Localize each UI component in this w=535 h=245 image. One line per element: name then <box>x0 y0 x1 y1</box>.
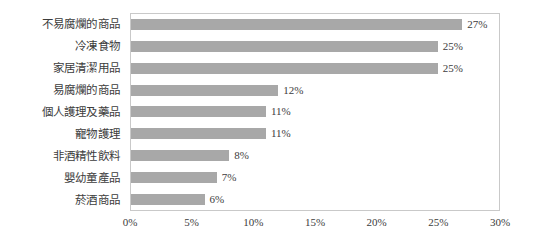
x-tick-label: 20% <box>367 216 387 229</box>
x-axis: 0% 5% 10% 15% 20% 25% 30% <box>130 213 500 233</box>
category-label: 寵物護理 <box>0 128 126 141</box>
x-tick-label: 30% <box>490 216 510 229</box>
bar-value-label: 11% <box>271 128 291 139</box>
bar-row: 11% <box>131 106 499 117</box>
bar <box>131 85 278 96</box>
category-label: 易腐爛的商品 <box>0 84 126 97</box>
bar-row: 11% <box>131 128 499 139</box>
bars-layer: 27% 25% 25% 12% 11% 11% <box>131 14 499 210</box>
x-tick-label: 10% <box>243 216 263 229</box>
bar-value-label: 25% <box>443 41 463 52</box>
bar-value-label: 25% <box>443 63 463 74</box>
bar-row: 25% <box>131 41 499 52</box>
x-tick-label: 25% <box>428 216 448 229</box>
bar <box>131 41 438 52</box>
bar <box>131 128 266 139</box>
category-label: 個人護理及藥品 <box>0 106 126 119</box>
category-label: 嬰幼童產品 <box>0 172 126 185</box>
bar <box>131 106 266 117</box>
category-label: 菸酒商品 <box>0 194 126 207</box>
bar-value-label: 7% <box>222 172 237 183</box>
bar <box>131 150 229 161</box>
bar-row: 27% <box>131 19 499 30</box>
category-label: 家居清潔用品 <box>0 62 126 75</box>
bar-value-label: 8% <box>234 150 249 161</box>
plot-area: 27% 25% 25% 12% 11% 11% <box>130 13 500 211</box>
bar-row: 8% <box>131 150 499 161</box>
bar <box>131 63 438 74</box>
bar-row: 7% <box>131 172 499 183</box>
category-label: 不易腐爛的商品 <box>0 18 126 31</box>
bar-row: 12% <box>131 85 499 96</box>
x-tick-label: 5% <box>184 216 199 229</box>
bar-value-label: 11% <box>271 106 291 117</box>
x-tick-label: 15% <box>305 216 325 229</box>
bar-value-label: 12% <box>283 85 303 96</box>
bar-chart: 不易腐爛的商品 冷凍食物 家居清潔用品 易腐爛的商品 個人護理及藥品 寵物護理 … <box>0 0 535 245</box>
category-axis: 不易腐爛的商品 冷凍食物 家居清潔用品 易腐爛的商品 個人護理及藥品 寵物護理 … <box>0 13 126 211</box>
bar <box>131 19 462 30</box>
bar <box>131 172 217 183</box>
category-label: 非酒精性飲料 <box>0 150 126 163</box>
bar-row: 25% <box>131 63 499 74</box>
category-label: 冷凍食物 <box>0 40 126 53</box>
bar-value-label: 27% <box>467 19 487 30</box>
bar-value-label: 6% <box>210 194 225 205</box>
bar <box>131 194 205 205</box>
x-tick-label: 0% <box>123 216 138 229</box>
bar-row: 6% <box>131 194 499 205</box>
